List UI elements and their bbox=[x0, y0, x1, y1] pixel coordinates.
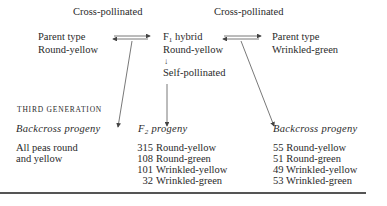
f2-label: Wrinkled-yellow bbox=[156, 164, 227, 175]
backcross-count: 55 bbox=[273, 142, 284, 153]
f2-heading: F2 progeny bbox=[138, 123, 188, 135]
backcross-count: 51 bbox=[273, 153, 284, 164]
backcross-right-arrow bbox=[241, 41, 274, 126]
backcross-count: 49 bbox=[273, 164, 284, 175]
self-pollinated-label: Self-pollinated bbox=[163, 67, 225, 79]
backcross-label: Round-green bbox=[286, 153, 341, 164]
backcross-count: 53 bbox=[273, 175, 284, 186]
f1-title: F1 hybrid bbox=[163, 31, 202, 43]
parent-right-type: Parent type bbox=[272, 31, 320, 43]
cross-pollinated-label-right: Cross-pollinated bbox=[214, 6, 283, 18]
backcross-label: Wrinkled-green bbox=[286, 175, 352, 186]
double-arrow-left-icon bbox=[113, 36, 150, 39]
f1-suffix: hybrid bbox=[172, 31, 202, 42]
f2-prefix: F bbox=[138, 123, 145, 134]
backcross-label: Wrinkled-yellow bbox=[286, 164, 357, 175]
backcross-right-heading: Backcross progeny bbox=[273, 123, 358, 135]
backcross-left-line: and yellow bbox=[16, 153, 62, 165]
parent-left-type: Parent type bbox=[38, 31, 86, 43]
f2-row: 32Wrinkled-green bbox=[136, 175, 222, 187]
cross-pollinated-label-left: Cross-pollinated bbox=[73, 6, 142, 18]
backcross-left-heading: Backcross progeny bbox=[16, 123, 101, 135]
generation-label: THIRD GENERATION bbox=[17, 104, 102, 116]
f2-label: Round-green bbox=[156, 153, 211, 164]
f2-count: 32 bbox=[136, 175, 153, 187]
f1-phenotype: Round-yellow bbox=[163, 44, 223, 56]
parent-right-phenotype: Wrinkled-green bbox=[272, 44, 338, 56]
f2-suffix: progeny bbox=[149, 123, 188, 134]
double-arrow-right-icon bbox=[223, 36, 261, 39]
parent-left-phenotype: Round-yellow bbox=[38, 44, 98, 56]
bottom-rule bbox=[0, 192, 366, 194]
backcross-left-arrow bbox=[118, 41, 132, 127]
f2-label: Round-yellow bbox=[156, 142, 216, 153]
f2-label: Wrinkled-green bbox=[156, 175, 222, 186]
backcross-right-row: 53 Wrinkled-green bbox=[273, 175, 352, 187]
backcross-label: Round-yellow bbox=[286, 142, 346, 153]
